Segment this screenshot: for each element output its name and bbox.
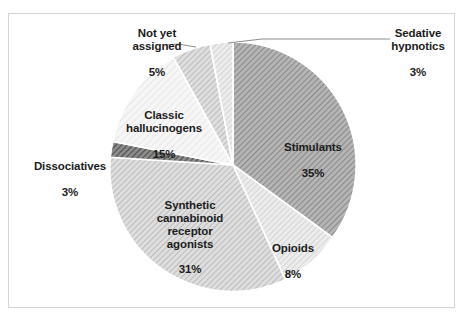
pie-label-synthetic-cannabinoid-receptor-agonists: Synthetic cannabinoid receptor agonists … [142,186,238,289]
pie-label-synthetic-cannabinoid-receptor-agonists-name: Synthetic cannabinoid receptor agonists [142,199,238,251]
pie-label-opioids-name: Opioids [262,242,324,255]
pie-label-synthetic-cannabinoid-receptor-agonists-percent: 31% [142,263,238,276]
pie-label-sedative-hypnotics-percent: 3% [376,66,460,79]
pie-label-opioids-percent: 8% [262,268,324,281]
pie-label-classic-hallucinogens: Classic hallucinogens 15% [118,96,210,173]
pie-label-sedative-hypnotics: Sedative hypnotics 3% [376,14,460,91]
pie-label-classic-hallucinogens-percent: 15% [118,148,210,161]
pie-label-sedative-hypnotics-name: Sedative hypnotics [376,27,460,53]
pie-label-stimulants-percent: 35% [272,167,354,180]
pie-label-classic-hallucinogens-name: Classic hallucinogens [118,109,210,135]
pie-label-stimulants-name: Stimulants [272,141,354,154]
pie-label-not-yet-assigned-name: Not yet assigned [116,27,198,53]
pie-label-stimulants: Stimulants 35% [272,128,354,192]
pie-label-opioids: Opioids 8% [262,229,324,293]
pie-label-not-yet-assigned-percent: 5% [116,66,198,79]
pie-label-not-yet-assigned: Not yet assigned 5% [116,14,198,91]
pie-label-dissociatives-percent: 3% [24,186,116,199]
leader-line-sedative-hypnotics [228,39,390,43]
pie-label-dissociatives: Dissociatives 3% [24,147,116,211]
pie-label-dissociatives-name: Dissociatives [24,160,116,173]
pie-chart-figure: Stimulants 35% Opioids 8% Synthetic cann… [0,0,467,322]
